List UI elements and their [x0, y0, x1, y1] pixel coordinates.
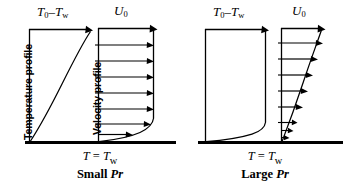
- prandtl-symbol: Pr: [111, 167, 124, 181]
- temperature-top-label-small-pr: T0–Tw: [37, 4, 68, 20]
- U-subscript-zero: 0: [301, 9, 305, 19]
- temperature-profile-axis-label: Temperature profile: [22, 44, 34, 140]
- T-symbol-wall: T: [268, 149, 275, 163]
- T-symbol: T: [248, 149, 255, 163]
- wall-condition-large-pr: T = Tw: [185, 149, 345, 166]
- regime-qualifier: Large: [241, 167, 273, 181]
- T-subscript-w: w: [275, 155, 283, 166]
- temperature-profile-curve-large-pr: [206, 122, 266, 142]
- U-symbol: U: [114, 3, 123, 18]
- equals-sign: =: [258, 149, 265, 163]
- T-symbol-wall: T: [103, 149, 110, 163]
- velocity-subplot-large-pr: [278, 25, 326, 142]
- velocity-profile-curve-small-pr: [99, 118, 154, 142]
- T-subscript-w: w: [110, 155, 118, 166]
- T-symbol: T: [83, 149, 90, 163]
- T-subscript-w: w: [62, 10, 68, 20]
- temperature-subplot-large-pr: [205, 26, 269, 142]
- velocity-subplot-small-pr: [95, 25, 158, 142]
- temperature-profile-curve-small-pr: [30, 32, 90, 142]
- U-symbol: U: [292, 3, 301, 18]
- U-subscript-zero: 0: [123, 9, 127, 19]
- temperature-top-arrowhead-small-pr: [85, 26, 93, 34]
- wall-condition-small-pr: T = Tw: [0, 149, 200, 166]
- regime-caption-small-pr: Small Pr: [0, 167, 200, 182]
- velocity-profile-curve-large-pr: [282, 30, 322, 142]
- regime-qualifier: Small: [77, 167, 108, 181]
- equals-sign: =: [93, 149, 100, 163]
- prandtl-symbol: Pr: [276, 167, 289, 181]
- velocity-arrows-small-pr: [99, 42, 154, 138]
- temperature-subplot-small-pr: [29, 26, 93, 142]
- panel-large-pr: [198, 25, 343, 143]
- velocity-top-label-small-pr: U0: [114, 3, 128, 19]
- velocity-top-label-large-pr: U0: [292, 3, 306, 19]
- T-subscript-w: w: [238, 10, 244, 20]
- regime-caption-large-pr: Large Pr: [185, 167, 345, 182]
- temperature-top-label-large-pr: T0–Tw: [213, 4, 244, 20]
- velocity-profile-axis-label: Velocity profile: [91, 62, 103, 135]
